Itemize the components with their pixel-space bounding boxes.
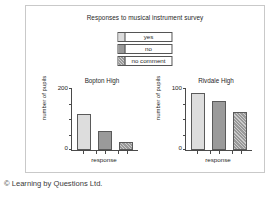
panel-rivdale-high: Rivdale High number of pupils 100 0 bbox=[146, 76, 256, 168]
bar-rivdale-yes bbox=[191, 93, 205, 150]
copyright-notice: © Learning by Questions Ltd. bbox=[4, 179, 102, 188]
bar-bopton-yes bbox=[77, 114, 91, 150]
x-tick-bopton-1 bbox=[83, 151, 84, 154]
legend-swatch-no-comment bbox=[118, 57, 125, 65]
x-tick-rivdale-5 bbox=[241, 151, 242, 154]
legend-label-no: no bbox=[125, 45, 171, 53]
legend-item-no-comment: no comment bbox=[117, 56, 172, 66]
bar-bopton-no bbox=[98, 131, 112, 150]
chart-figure: Responses to musical instrument survey y… bbox=[25, 5, 265, 173]
legend-label-no-comment: no comment bbox=[125, 57, 171, 65]
legend-item-no: no bbox=[117, 44, 172, 54]
chart-legend: yes no no comment bbox=[117, 32, 172, 66]
y-axis-label-bopton: number of pupils bbox=[41, 68, 47, 128]
legend-swatch-no bbox=[118, 45, 125, 53]
panel-title-rivdale: Rivdale High bbox=[176, 77, 256, 84]
y-tick-label-bopton-min: 0 bbox=[48, 144, 68, 151]
legend-label-yes: yes bbox=[125, 33, 171, 41]
bars-bopton bbox=[72, 88, 138, 150]
x-tick-rivdale-4 bbox=[232, 151, 233, 154]
plot-area-bopton bbox=[71, 88, 138, 151]
bars-rivdale bbox=[186, 88, 252, 150]
x-ticks-bopton bbox=[72, 151, 138, 154]
x-tick-rivdale-2 bbox=[210, 151, 211, 154]
x-ticks-rivdale bbox=[186, 151, 252, 154]
x-tick-rivdale-1 bbox=[197, 151, 198, 154]
x-tick-bopton-2 bbox=[96, 151, 97, 154]
x-axis-label-bopton: response bbox=[71, 156, 137, 163]
legend-item-yes: yes bbox=[117, 32, 172, 42]
bar-rivdale-no bbox=[212, 101, 226, 150]
x-axis-label-rivdale: response bbox=[185, 156, 251, 163]
legend-swatch-yes bbox=[118, 33, 125, 41]
bar-rivdale-no-comment bbox=[233, 112, 247, 150]
chart-title: Responses to musical instrument survey bbox=[26, 14, 264, 21]
y-tick-rivdale-0 bbox=[183, 149, 186, 150]
plot-area-rivdale bbox=[185, 88, 252, 151]
x-tick-rivdale-3 bbox=[219, 151, 220, 154]
bar-bopton-no-comment bbox=[119, 142, 133, 150]
panel-title-bopton: Bopton High bbox=[62, 77, 142, 84]
x-tick-bopton-3 bbox=[105, 151, 106, 154]
x-tick-bopton-5 bbox=[127, 151, 128, 154]
y-axis-label-rivdale: number of pupils bbox=[155, 68, 161, 128]
y-tick-label-bopton-max: 200 bbox=[48, 84, 68, 91]
y-tick-bopton-0 bbox=[69, 149, 72, 150]
x-tick-bopton-4 bbox=[118, 151, 119, 154]
y-tick-label-rivdale-max: 100 bbox=[162, 84, 182, 91]
panel-bopton-high: Bopton High number of pupils 200 0 bbox=[32, 76, 142, 168]
y-tick-label-rivdale-min: 0 bbox=[162, 144, 182, 151]
